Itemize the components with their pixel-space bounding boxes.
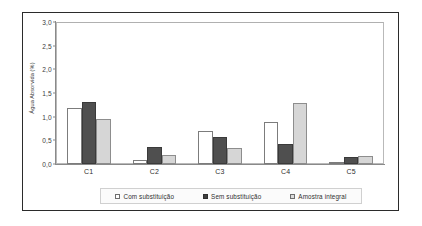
x-tick-label: C3 <box>215 168 224 175</box>
legend-item[interactable]: Com substituição <box>115 193 174 200</box>
bar <box>227 148 242 164</box>
legend-label: Amostra integral <box>298 193 346 200</box>
legend-item[interactable]: Sem substituição <box>203 193 261 200</box>
bar <box>278 144 293 164</box>
bar <box>329 162 344 164</box>
legend-swatch-icon <box>115 194 120 199</box>
bar <box>82 102 97 164</box>
legend-swatch-icon <box>203 194 208 199</box>
plot-area-wrapper: 0,00,51,01,52,02,53,0 C1C2C3C4C5 <box>56 22 384 164</box>
bar <box>67 108 82 164</box>
bar <box>198 131 213 164</box>
x-tick-label: C2 <box>150 168 159 175</box>
bar <box>162 155 177 164</box>
bar <box>344 157 359 164</box>
legend-label: Sem substituição <box>211 193 261 200</box>
legend-swatch-icon <box>290 194 295 199</box>
y-tick-mark <box>53 22 57 23</box>
bar <box>358 156 373 164</box>
bar <box>264 122 279 164</box>
y-tick-mark <box>53 69 57 70</box>
y-tick-mark <box>53 164 57 165</box>
y-axis-title: Água Absorvida (%) <box>26 28 38 148</box>
chart-figure: Água Absorvida (%) 0,00,51,01,52,02,53,0… <box>0 0 422 226</box>
y-tick-mark <box>53 93 57 94</box>
x-tick-label: C1 <box>84 168 93 175</box>
x-tick-label: C5 <box>347 168 356 175</box>
chart-legend: Com substituiçãoSem substituiçãoAmostra … <box>100 188 362 204</box>
bar <box>213 137 228 164</box>
y-tick-mark <box>53 45 57 46</box>
legend-label: Com substituição <box>123 193 174 200</box>
bar <box>96 119 111 164</box>
x-axis-line <box>55 164 385 165</box>
bar <box>293 103 308 164</box>
legend-item[interactable]: Amostra integral <box>290 193 346 200</box>
y-tick-mark <box>53 116 57 117</box>
bar <box>147 147 162 164</box>
y-axis-title-text: Água Absorvida (%) <box>26 28 38 148</box>
y-tick-mark <box>53 140 57 141</box>
bar <box>133 160 148 164</box>
x-tick-label: C4 <box>281 168 290 175</box>
